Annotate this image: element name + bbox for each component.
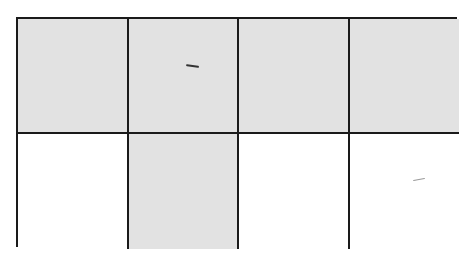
shaded-cell-r1c1: [129, 134, 239, 249]
shaded-cell-r0c2: [239, 19, 350, 134]
fraction-grid: [16, 17, 457, 247]
shaded-cell-r0c1: [129, 19, 239, 134]
shaded-cell-r0c0: [18, 19, 129, 134]
unshaded-cell-r1c0: [18, 134, 129, 249]
pencil-mark: [186, 64, 199, 68]
pencil-mark: [413, 178, 425, 181]
shaded-cell-r0c3: [350, 19, 459, 134]
unshaded-cell-r1c2: [239, 134, 350, 249]
unshaded-cell-r1c3: [350, 134, 459, 249]
